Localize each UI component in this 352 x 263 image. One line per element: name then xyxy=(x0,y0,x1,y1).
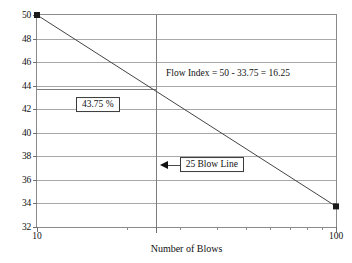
x-axis-tick-minor xyxy=(322,227,323,230)
x-axis-tick-minor xyxy=(156,227,157,233)
annotation-flow-index: Flow Index = 50 - 33.75 = 16.25 xyxy=(166,68,290,78)
y-axis-tick-label: 44 xyxy=(22,81,31,91)
x-axis-tick-minor xyxy=(246,227,247,230)
x-axis-tick-label: 10 xyxy=(32,231,42,241)
x-axis-tick-minor xyxy=(270,227,271,230)
annotation-moisture-value: 43.75 % xyxy=(76,97,120,113)
y-axis-tick-label: 42 xyxy=(22,104,31,114)
annotation-blow-line: 25 Blow Line xyxy=(180,157,244,173)
y-axis-tick-label: 50 xyxy=(22,10,31,20)
y-axis-tick-label: 34 xyxy=(22,198,31,208)
y-axis-tick-label: 40 xyxy=(22,128,31,138)
y-axis-tick-label: 46 xyxy=(22,57,31,67)
x-axis-tick-label: 100 xyxy=(329,231,343,241)
x-axis-tick-minor xyxy=(180,227,181,230)
plot-area: 3234363840424446485010100Flow Index = 50… xyxy=(36,14,337,228)
x-axis-title: Number of Blows xyxy=(36,243,337,254)
flow-curve-figure: Moisture Content in % 323436384042444648… xyxy=(0,0,352,263)
y-axis-tick-label: 48 xyxy=(22,34,31,44)
x-axis-tick-minor xyxy=(127,227,128,230)
y-axis-tick-label: 36 xyxy=(22,175,31,185)
x-axis-tick-minor xyxy=(307,227,308,230)
data-point-marker xyxy=(333,203,339,209)
x-axis-tick-minor xyxy=(217,227,218,230)
x-axis-tick-minor xyxy=(290,227,291,230)
annotation-arrow-stem xyxy=(168,165,180,166)
y-axis-tick-label: 32 xyxy=(22,222,31,232)
data-point-marker xyxy=(34,12,40,18)
y-axis-tick-label: 38 xyxy=(22,151,31,161)
flow-curve-series xyxy=(37,15,336,227)
annotation-arrow-head-icon xyxy=(160,161,168,169)
